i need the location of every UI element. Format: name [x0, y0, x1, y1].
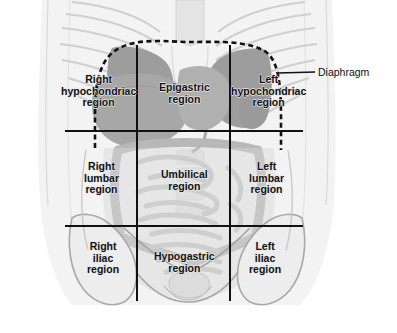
abdominal-regions-figure: Right hypochondriac regionEpigastric reg… [0, 0, 397, 333]
overlay-lines [0, 0, 397, 333]
vertical-plane-lines [137, 45, 230, 301]
callout-leader-lines [278, 72, 315, 73]
diaphragm-leader-line [278, 72, 315, 73]
diaphragm-label: Diaphragm [318, 66, 369, 78]
horizontal-plane-lines [65, 131, 303, 226]
diaphragm-dashed-outline [95, 41, 281, 150]
